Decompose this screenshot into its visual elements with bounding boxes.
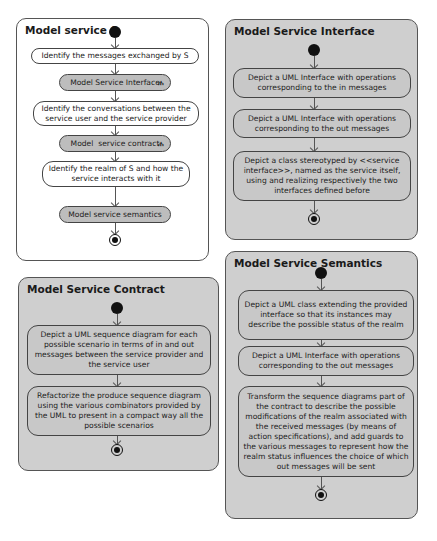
panel-title: Model Service Interface [234, 25, 375, 37]
action-depict-sequence-diagrams[interactable]: Depict a UML sequence diagram for each p… [27, 325, 211, 375]
final-node-icon [315, 489, 327, 501]
panel-title: Model Service Contract [27, 283, 165, 295]
panel-model-service-contract: Model Service Contract Depict a UML sequ… [18, 277, 219, 471]
flow-arrow [117, 314, 118, 325]
action-refactorize-diagram[interactable]: Refactorize the produce sequence diagram… [27, 386, 211, 436]
action-identify-realm[interactable]: Identify the realm of S and how the serv… [42, 161, 190, 187]
action-identify-conversations[interactable]: Identify the conversations between the s… [33, 101, 199, 126]
flow-arrow [117, 375, 118, 386]
rake-icon: ሐ [158, 78, 164, 88]
panel-model-service-s: Model service S Identify the messages ex… [16, 18, 209, 261]
node-label: Model Service Interface [70, 78, 160, 88]
flow-arrow [115, 91, 116, 101]
flow-arrow [314, 138, 315, 151]
flow-arrow [115, 126, 116, 135]
flow-arrow [115, 223, 116, 234]
panel-model-service-semantics: Model Service Semantics Depict a UML cla… [225, 251, 418, 519]
final-node-icon [109, 234, 121, 246]
initial-node-icon [308, 44, 320, 56]
initial-node-icon [109, 26, 121, 38]
call-model-service-semantics[interactable]: Model service semantics [59, 206, 171, 223]
flow-arrow [117, 436, 118, 444]
panel-title: Model service S [25, 24, 118, 36]
final-node-icon [308, 213, 320, 225]
action-depict-out-interface[interactable]: Depict a UML Interface with operations c… [233, 109, 411, 138]
final-node-icon [111, 444, 123, 456]
action-depict-in-interface[interactable]: Depict a UML Interface with operations c… [233, 68, 411, 98]
flow-arrow [321, 376, 322, 386]
action-depict-realm-class[interactable]: Depict a UML class extending the provide… [238, 290, 414, 340]
flow-arrow [115, 38, 116, 48]
call-model-service-contract[interactable]: Model service contract ሐ [59, 135, 171, 152]
flow-arrow [314, 98, 315, 109]
flow-arrow [115, 187, 116, 206]
initial-node-icon [315, 267, 327, 279]
action-transform-sequence-diagrams[interactable]: Transform the sequence diagrams part of … [238, 386, 414, 477]
initial-node-icon [111, 302, 123, 314]
rake-icon: ሐ [158, 139, 164, 149]
action-identify-messages[interactable]: Identify the messages exchanged by S [31, 48, 199, 64]
call-model-service-interface[interactable]: Model Service Interface ሐ [59, 74, 171, 91]
action-depict-service-class[interactable]: Depict a class stereotyped by <<service … [233, 151, 411, 201]
flow-arrow [314, 56, 315, 68]
flow-arrow [115, 64, 116, 74]
action-depict-out-interface[interactable]: Depict a UML Interface with operations c… [238, 346, 414, 376]
node-label: Model service contract [71, 139, 160, 149]
panel-model-service-interface: Model Service Interface Depict a UML Int… [225, 19, 418, 240]
flow-arrow [321, 477, 322, 489]
flow-arrow [314, 201, 315, 213]
panel-title: Model Service Semantics [234, 257, 382, 269]
flow-arrow [115, 152, 116, 161]
flow-arrow [321, 279, 322, 290]
